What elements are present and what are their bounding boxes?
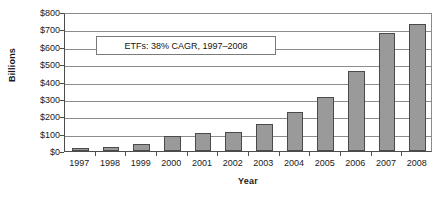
x-axis-tick-labels: 1997199819992000200120022003200420052006… [64, 158, 432, 170]
y-axis-tick-label: $0 [22, 148, 60, 157]
y-axis-tick-label: $200 [22, 113, 60, 122]
bar [256, 124, 273, 151]
x-axis-tick-mark [309, 152, 310, 156]
bar-slot [341, 14, 372, 151]
bar-slot [372, 14, 403, 151]
bar-slot [157, 14, 188, 151]
x-axis-tick-mark [401, 152, 402, 156]
x-axis-tick-label: 2000 [156, 158, 187, 169]
bar-slot [249, 14, 280, 151]
x-axis-tick-label: 2006 [340, 158, 371, 169]
bar-slot [310, 14, 341, 151]
y-axis-tick-label: $100 [22, 131, 60, 140]
y-axis-tick-labels: $0$100$200$300$400$500$600$700$800 [22, 13, 60, 152]
x-axis-title: Year [64, 176, 432, 186]
bar-slot [65, 14, 96, 151]
bar [133, 144, 150, 151]
bar-slot [280, 14, 311, 151]
x-axis-tick-label: 1997 [64, 158, 95, 169]
x-axis-tick-mark [279, 152, 280, 156]
x-axis-tick-mark [187, 152, 188, 156]
x-axis-tick-label: 2003 [248, 158, 279, 169]
bar [225, 132, 242, 151]
bar [409, 24, 426, 151]
x-axis-tick-label: 2005 [309, 158, 340, 169]
cagr-annotation-text: ETFs: 38% CAGR, 1997–2008 [124, 41, 247, 51]
x-axis-tick-label: 2008 [401, 158, 432, 169]
x-axis-tick-mark [340, 152, 341, 156]
x-axis-tick-mark [248, 152, 249, 156]
x-axis-tick-label: 1998 [95, 158, 126, 169]
y-axis-tick-label: $800 [22, 9, 60, 18]
bar [348, 71, 365, 151]
x-axis-tick-mark [156, 152, 157, 156]
y-axis-tick-label: $400 [22, 79, 60, 88]
bar [103, 147, 120, 151]
bars-layer [65, 14, 431, 151]
y-axis-tick-label: $500 [22, 61, 60, 70]
x-axis-tick-label: 2001 [187, 158, 218, 169]
x-axis-tick-mark [217, 152, 218, 156]
bar-slot [218, 14, 249, 151]
bar [164, 136, 181, 151]
y-axis-title: Billions [7, 30, 17, 100]
x-axis-ticks [64, 152, 432, 156]
bar-slot [96, 14, 127, 151]
x-axis-tick-mark [125, 152, 126, 156]
x-axis-tick-mark [371, 152, 372, 156]
x-axis-tick-label: 1999 [125, 158, 156, 169]
bar-slot [188, 14, 219, 151]
y-axis-tick-label: $700 [22, 26, 60, 35]
bar [379, 33, 396, 151]
x-axis-tick-label: 2004 [279, 158, 310, 169]
bar-slot [126, 14, 157, 151]
bar [317, 97, 334, 151]
cagr-annotation-box: ETFs: 38% CAGR, 1997–2008 [96, 36, 276, 55]
plot-area [64, 13, 432, 152]
x-axis-tick-label: 2007 [371, 158, 402, 169]
bar [195, 133, 212, 151]
etf-assets-bar-chart: Billions $0$100$200$300$400$500$600$700$… [0, 0, 444, 202]
y-axis-tick-label: $300 [22, 96, 60, 105]
bar [287, 112, 304, 151]
bar [72, 148, 89, 151]
x-axis-tick-label: 2002 [217, 158, 248, 169]
x-axis-tick-mark [95, 152, 96, 156]
y-axis-tick-label: $600 [22, 44, 60, 53]
bar-slot [402, 14, 433, 151]
